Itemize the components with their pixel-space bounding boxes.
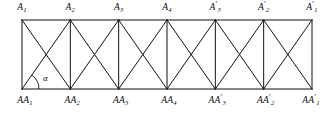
label-base: AA: [302, 95, 314, 105]
label-base: AA: [161, 95, 173, 105]
node-a4-label: A4: [162, 2, 172, 12]
label-subscript: 4: [173, 99, 177, 106]
label-subscript: 3: [218, 6, 222, 13]
node-aa3-label: AA3: [113, 95, 129, 105]
label-subscript: 1: [314, 6, 318, 13]
node-aa2-label: AA2: [65, 95, 81, 105]
node-aa1-label: AA1: [17, 95, 33, 105]
label-base: AA: [257, 95, 269, 105]
node-a3-prime-label: A′3: [210, 2, 221, 12]
label-subscript: 3: [125, 99, 129, 106]
label-subscript: 2: [271, 99, 275, 106]
label-subscript: 4: [168, 6, 172, 13]
angle-alpha-label: α: [43, 73, 48, 83]
label-base: AA: [17, 95, 29, 105]
node-aa3-prime-label: AA′3: [209, 95, 226, 105]
label-subscript: 2: [77, 99, 81, 106]
node-aa2-prime-label: AA′2: [257, 95, 274, 105]
label-subscript: 3: [223, 99, 227, 106]
label-subscript: 1: [29, 99, 33, 106]
web-members-group: [22, 20, 312, 89]
node-aa4-label: AA4: [161, 95, 177, 105]
node-a2-label: A2: [66, 2, 76, 12]
node-a1-label: A1: [17, 2, 27, 12]
label-subscript: 2: [266, 6, 270, 13]
label-base: AA: [65, 95, 77, 105]
label-subscript: 1: [23, 6, 27, 13]
label-base: AA: [113, 95, 125, 105]
label-subscript: 1: [316, 99, 320, 106]
node-a3-label: A3: [114, 2, 124, 12]
angle-arc: [32, 75, 39, 89]
truss-diagram: A1A2A3A4A′3A′2A′1 AA1AA2AA3AA4AA′3AA′2AA…: [0, 0, 335, 115]
node-a2-prime-label: A′2: [258, 2, 269, 12]
label-base: AA: [209, 95, 221, 105]
label-subscript: 2: [72, 6, 76, 13]
node-aa1-prime-label: AA′1: [302, 95, 319, 105]
node-a1-prime-label: A′1: [306, 2, 317, 12]
label-subscript: 3: [120, 6, 124, 13]
angle-arc-path: [32, 75, 39, 89]
